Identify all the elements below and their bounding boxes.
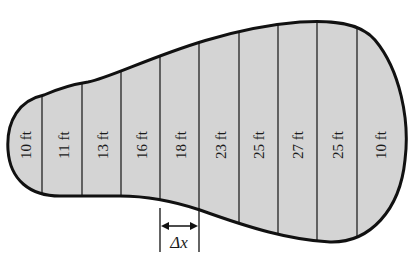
strip-diagram: 10 ft 11 ft 13 ft 16 ft 18 ft 23 ft 25 f… bbox=[0, 0, 410, 262]
strip-label: 18 ft bbox=[173, 130, 189, 159]
delta-x-label: Δx bbox=[169, 233, 188, 252]
strip-label: 23 ft bbox=[213, 130, 229, 159]
strip-label: 25 ft bbox=[251, 130, 267, 159]
strip-label: 16 ft bbox=[134, 130, 150, 159]
strip-label: 10 ft bbox=[18, 130, 34, 159]
strip-label: 27 ft bbox=[290, 130, 306, 159]
arrow-right-icon bbox=[190, 222, 198, 230]
strip-label: 10 ft bbox=[373, 130, 389, 159]
arrow-left-icon bbox=[161, 222, 169, 230]
strip-label: 25 ft bbox=[330, 130, 346, 159]
diagram-canvas: 10 ft 11 ft 13 ft 16 ft 18 ft 23 ft 25 f… bbox=[0, 0, 410, 262]
strip-label: 13 ft bbox=[95, 130, 111, 159]
strip-label: 11 ft bbox=[56, 130, 72, 158]
